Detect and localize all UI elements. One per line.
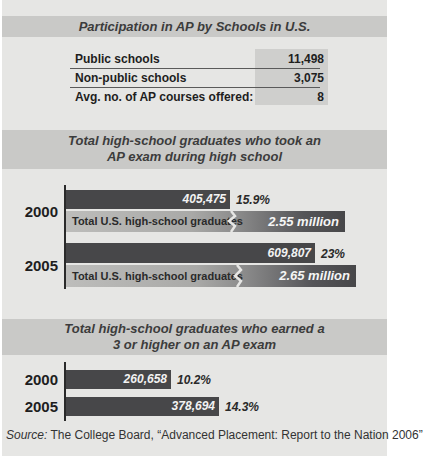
row-value: 11,498 [254, 50, 324, 68]
total-label: Total U.S. high-school graduates [72, 211, 243, 232]
percent-label: 15.9% [236, 193, 270, 207]
total-graduates-bar-2005: Total U.S. high-school graduates 2.65 mi… [66, 265, 356, 287]
exam-title-line2: AP exam during high school [2, 149, 387, 165]
exam-bar-2000: 405,475 [66, 190, 230, 209]
percent-label: 14.3% [225, 400, 259, 414]
year-label: 2000 [8, 203, 58, 220]
table-section-header: Participation in AP by Schools in U.S. [2, 16, 387, 37]
total-value: 2.55 million [268, 211, 339, 232]
year-label: 2005 [8, 257, 58, 274]
source-text: The College Board, “Advanced Placement: … [47, 428, 422, 442]
row-value: 3,075 [254, 69, 324, 87]
table-section-title: Participation in AP by Schools in U.S. [2, 16, 387, 37]
bar-value: 609,807 [268, 246, 311, 260]
total-graduates-bar-2000: Total U.S. high-school graduates 2.55 mi… [66, 211, 345, 232]
score-title-line1: Total high-school graduates who earned a [2, 321, 387, 337]
axis-break-icon [226, 211, 240, 232]
year-label: 2005 [8, 398, 58, 415]
score-title-line2: 3 or higher on an AP exam [2, 337, 387, 353]
percent-label: 23% [321, 247, 345, 261]
percent-label: 10.2% [177, 373, 211, 387]
table-row: Avg. no. of AP courses offered: 8 [70, 88, 320, 106]
bar-value: 405,475 [183, 192, 226, 206]
exam-title-line1: Total high-school graduates who took an [2, 133, 387, 149]
axis-break-icon [232, 265, 246, 287]
year-label: 2000 [8, 371, 58, 388]
participation-table: Public schools 11,498 Non-public schools… [70, 50, 320, 106]
row-label: Avg. no. of AP courses offered: [75, 88, 253, 106]
exam-section-header: Total high-school graduates who took an … [2, 130, 387, 169]
table-row: Non-public schools 3,075 [70, 69, 320, 88]
total-value: 2.65 million [279, 265, 350, 287]
bar-value: 378,694 [172, 399, 215, 413]
bar-value: 260,658 [124, 372, 167, 386]
score-bar-2005: 378,694 [66, 397, 219, 416]
exam-bar-2005: 609,807 [66, 243, 315, 263]
source-citation: Source: The College Board, “Advanced Pla… [6, 428, 423, 442]
total-label: Total U.S. high-school graduates [72, 265, 243, 287]
row-value: 8 [254, 88, 324, 106]
score-section-header: Total high-school graduates who earned a… [2, 319, 387, 355]
row-label: Non-public schools [75, 69, 186, 87]
source-prefix: Source: [6, 428, 47, 442]
score-bar-2000: 260,658 [66, 370, 171, 389]
row-label: Public schools [75, 50, 160, 68]
table-row: Public schools 11,498 [70, 50, 320, 69]
